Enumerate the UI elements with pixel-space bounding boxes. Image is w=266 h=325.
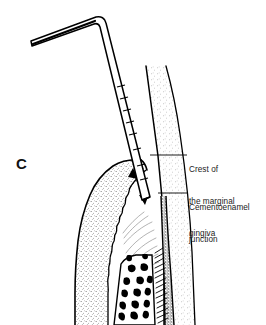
callout-crest-line-1: Crest of bbox=[189, 165, 235, 176]
callout-cej-line-2: junction bbox=[189, 235, 250, 246]
panel-letter: C bbox=[16, 156, 27, 171]
callout-cej-line-1: Cementoenamel bbox=[189, 203, 250, 214]
figure-panel-c: C Crest of the marginal gingiva Cementoe… bbox=[0, 0, 266, 325]
callout-cementoenamel-junction: Cementoenamel junction bbox=[189, 182, 250, 267]
